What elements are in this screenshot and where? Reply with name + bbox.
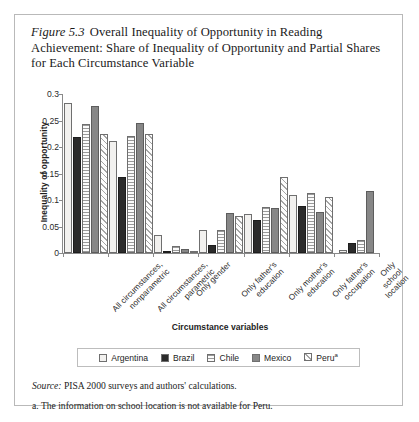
legend-item-mexico[interactable]: Mexico bbox=[252, 353, 291, 363]
legend-label-peru: Perua bbox=[316, 352, 338, 363]
legend-superscript-peru: a bbox=[334, 352, 337, 358]
source-note: Source: PISA 2000 surveys and authors' c… bbox=[32, 380, 237, 391]
bar-chile-only-father-s-education bbox=[217, 230, 225, 253]
bar-brazil-only-mother-s-education bbox=[253, 220, 261, 253]
figure-panel: Figure 5.3Overall Inequality of Opportun… bbox=[14, 14, 403, 406]
bar-argentina-only-father-s-occupation bbox=[289, 195, 297, 253]
bar-chile-all-circumstances-parametric bbox=[127, 136, 135, 253]
legend-label-argentina: Argentina bbox=[111, 353, 148, 363]
bar-brazil-only-school-location bbox=[348, 243, 356, 253]
x-axis-label-only-father-s-education: Only father's education bbox=[240, 260, 286, 306]
bar-group-only-school-location bbox=[334, 94, 379, 253]
chart-legend: ArgentinaBrazilChileMexicoPerua bbox=[77, 348, 360, 367]
y-tick-label-1: 0.05 bbox=[42, 222, 59, 232]
bar-peru-only-father-s-occupation bbox=[325, 197, 333, 253]
bar-chile-only-mother-s-education bbox=[262, 207, 270, 253]
bar-argentina-only-father-s-education bbox=[199, 230, 207, 253]
footnote: a. The information on school location is… bbox=[32, 400, 273, 411]
bar-mexico-only-father-s-occupation bbox=[316, 212, 324, 253]
x-axis-label-only-father-s-occupation: Only father's occupation bbox=[330, 260, 376, 306]
bar-argentina-only-mother-s-education bbox=[244, 214, 252, 253]
bar-peru-only-mother-s-education bbox=[280, 177, 288, 253]
bar-group-all-circumstances-parametric bbox=[108, 94, 153, 253]
bar-chile-only-gender bbox=[172, 246, 180, 253]
legend-item-brazil[interactable]: Brazil bbox=[161, 353, 195, 363]
x-tick-mark-2 bbox=[198, 253, 199, 257]
bar-brazil-all-circumstances-parametric bbox=[118, 177, 126, 253]
bar-group-only-mother-s-education bbox=[244, 94, 289, 253]
bar-peru-all-circumstances-nonparametric bbox=[100, 134, 108, 253]
x-tick-mark-1 bbox=[153, 253, 154, 257]
bar-mexico-all-circumstances-parametric bbox=[136, 123, 144, 253]
x-axis-label-only-school-location: Only school location bbox=[370, 260, 410, 300]
source-label: Source: bbox=[32, 380, 61, 391]
x-axis-title: Circumstance variables bbox=[62, 322, 378, 332]
bar-group-only-father-s-occupation bbox=[289, 94, 334, 253]
bar-mexico-only-mother-s-education bbox=[271, 208, 279, 253]
bar-mexico-only-gender bbox=[181, 249, 189, 253]
bar-mexico-only-father-s-education bbox=[226, 213, 234, 253]
x-tick-mark-origin bbox=[63, 253, 64, 257]
bar-chile-only-school-location bbox=[357, 240, 365, 253]
bar-mexico-only-school-location bbox=[366, 191, 374, 253]
legend-swatch-chile bbox=[207, 354, 215, 362]
x-axis-label-only-mother-s-education: Only mother's education bbox=[286, 260, 335, 309]
bar-brazil-all-circumstances-nonparametric bbox=[73, 137, 81, 253]
x-tick-mark-3 bbox=[244, 253, 245, 257]
bar-argentina-all-circumstances-nonparametric bbox=[64, 103, 72, 253]
legend-swatch-mexico bbox=[252, 354, 260, 362]
legend-item-chile[interactable]: Chile bbox=[207, 353, 239, 363]
x-tick-mark-4 bbox=[289, 253, 290, 257]
legend-swatch-peru bbox=[304, 353, 312, 361]
y-tick-label-4: 0.2 bbox=[47, 142, 59, 152]
bar-chile-all-circumstances-nonparametric bbox=[82, 124, 90, 253]
bar-chile-only-father-s-occupation bbox=[307, 193, 315, 253]
bar-group-only-gender bbox=[153, 94, 198, 253]
x-tick-mark-6 bbox=[379, 253, 380, 257]
bar-peru-only-father-s-education bbox=[235, 216, 243, 253]
bar-argentina-only-gender bbox=[154, 235, 162, 253]
bar-argentina-only-school-location bbox=[339, 250, 347, 253]
legend-item-peru[interactable]: Perua bbox=[304, 352, 338, 363]
bar-peru-only-gender bbox=[190, 251, 198, 253]
y-tick-label-3: 0.15 bbox=[42, 169, 59, 179]
bar-brazil-only-father-s-education bbox=[208, 245, 216, 253]
bar-group-only-father-s-education bbox=[198, 94, 243, 253]
x-tick-mark-5 bbox=[334, 253, 335, 257]
bar-group-all-circumstances-nonparametric bbox=[63, 94, 108, 253]
bar-brazil-only-father-s-occupation bbox=[298, 206, 306, 253]
bar-peru-all-circumstances-parametric bbox=[145, 134, 153, 253]
bar-mexico-all-circumstances-nonparametric bbox=[91, 106, 99, 253]
legend-label-chile: Chile bbox=[219, 353, 239, 363]
y-tick-label-2: 0.1 bbox=[47, 195, 59, 205]
bar-brazil-only-gender bbox=[163, 251, 171, 253]
bar-argentina-all-circumstances-parametric bbox=[109, 141, 117, 253]
legend-item-argentina[interactable]: Argentina bbox=[99, 353, 148, 363]
source-text: PISA 2000 surveys and authors' calculati… bbox=[64, 380, 237, 391]
legend-label-mexico: Mexico bbox=[264, 353, 291, 363]
legend-swatch-argentina bbox=[99, 354, 107, 362]
legend-swatch-brazil bbox=[161, 354, 169, 362]
x-tick-mark-0 bbox=[108, 253, 109, 257]
plot-area: 00.050.10.150.20.250.3All circumstances,… bbox=[62, 94, 379, 254]
y-tick-label-6: 0.3 bbox=[47, 89, 59, 99]
y-tick-label-5: 0.25 bbox=[42, 116, 59, 126]
legend-label-brazil: Brazil bbox=[173, 353, 195, 363]
